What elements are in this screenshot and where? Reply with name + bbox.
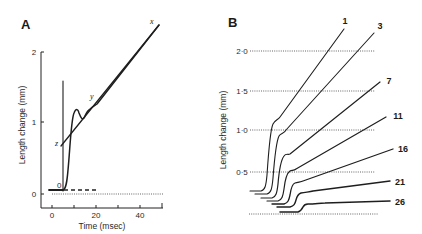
x-tick-label-0: 0 bbox=[50, 211, 55, 220]
trace-1 bbox=[250, 29, 344, 191]
trace-11 bbox=[267, 117, 386, 201]
trace-7 bbox=[261, 82, 380, 198]
x-tick-label-40: 40 bbox=[136, 211, 145, 220]
response-curve bbox=[63, 25, 159, 190]
annotation-y: y bbox=[89, 92, 94, 101]
y-tick-label-0-5: 0·5 bbox=[236, 168, 248, 177]
y-tick-label-1: 1 bbox=[32, 118, 37, 127]
annotation-0: 0 bbox=[57, 181, 62, 190]
annotation-x: x bbox=[149, 17, 154, 26]
trace-label-16: 16 bbox=[398, 144, 408, 154]
trace-label-3: 3 bbox=[377, 21, 382, 31]
panel-b-label: B bbox=[228, 15, 237, 30]
y-tick-label-1-5: 1·5 bbox=[236, 87, 248, 96]
trace-label-7: 7 bbox=[386, 76, 391, 86]
trace-label-21: 21 bbox=[395, 177, 405, 187]
y-tick-label-2: 2 bbox=[32, 48, 37, 57]
trace-label-11: 11 bbox=[393, 111, 403, 121]
panel-a-label: A bbox=[21, 17, 31, 32]
annotation-z: z bbox=[54, 139, 59, 148]
x-axis-title: Time (msec) bbox=[79, 221, 126, 231]
y-tick-label-2-0: 2·0 bbox=[236, 47, 248, 56]
trace-3 bbox=[255, 33, 374, 194]
x-tick-label-20: 20 bbox=[92, 211, 101, 220]
y-axis-title-b: Length change (mm) bbox=[218, 91, 228, 170]
trace-label-1: 1 bbox=[342, 16, 347, 26]
panel-a: A 2 1 0 0 20 40 Time (msec) Length chang… bbox=[17, 17, 163, 231]
y-axis-title: Length change (mm) bbox=[17, 86, 27, 165]
panel-b: B Length change (mm) 2·0 1·5 1·0 0·5 1 3… bbox=[218, 15, 408, 214]
figure: A 2 1 0 0 20 40 Time (msec) Length chang… bbox=[0, 0, 422, 234]
y-tick-label-1-0: 1·0 bbox=[236, 126, 248, 135]
trace-26 bbox=[280, 201, 390, 212]
y-tick-label-0: 0 bbox=[32, 190, 37, 199]
trace-label-26: 26 bbox=[395, 197, 405, 207]
trace-16 bbox=[272, 149, 393, 204]
